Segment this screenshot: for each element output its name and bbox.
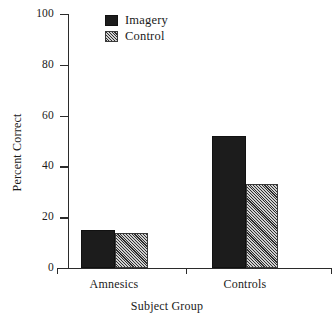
y-axis-line (68, 14, 69, 268)
legend-label-imagery: Imagery (125, 14, 168, 27)
y-tick-label-20: 20 (14, 211, 54, 223)
bar-amnesics-imagery (81, 230, 115, 268)
legend-label-control: Control (125, 30, 165, 43)
y-tick-label-100: 100 (14, 8, 54, 20)
x-category-label-controls: Controls (185, 277, 305, 291)
y-tick-label-80: 80 (14, 59, 54, 71)
y-tick-80 (60, 65, 68, 66)
y-axis-title: Percent Correct (10, 93, 25, 213)
x-tick-left (57, 268, 58, 274)
y-tick-20 (60, 217, 68, 218)
x-axis-line (57, 268, 332, 269)
legend-item-control: Control (105, 28, 168, 44)
legend-item-imagery: Imagery (105, 12, 168, 28)
y-tick-40 (60, 166, 68, 167)
y-tick-60 (60, 116, 68, 117)
y-tick-label-0: 0 (14, 262, 54, 274)
bar-amnesics-control (115, 233, 148, 267)
bar-controls-imagery (212, 136, 246, 268)
x-tick-middle (186, 268, 187, 274)
legend-swatch-solid-icon (105, 15, 118, 26)
bar-controls-control (246, 184, 278, 268)
legend-swatch-hatch-icon (105, 31, 118, 42)
chart-legend: Imagery Control (105, 12, 168, 44)
x-tick-right (331, 268, 332, 274)
bar-chart-figure: 100 80 60 40 20 0 Percent Correct Amnesi… (0, 0, 334, 320)
y-tick-100 (60, 14, 68, 15)
x-category-label-amnesics: Amnesics (54, 277, 174, 291)
x-axis-title: Subject Group (0, 299, 334, 314)
